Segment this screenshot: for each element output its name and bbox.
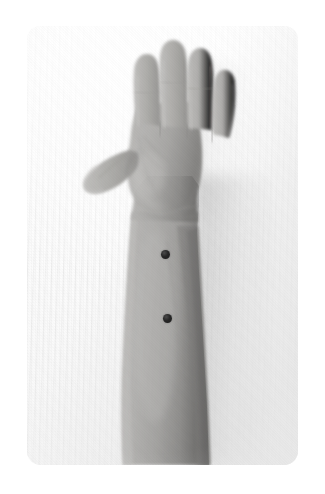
index-finger-shape [134, 54, 161, 126]
page-canvas: Grayscale photograph of a left forearm a… [0, 0, 325, 494]
left-forearm-and-hand [27, 26, 298, 465]
marker-proximal [161, 250, 170, 259]
middle-finger-shape [160, 40, 188, 128]
little-finger-shape [212, 70, 235, 138]
forearm-photograph: Grayscale photograph of a left forearm a… [27, 26, 298, 465]
marker-distal [163, 314, 172, 323]
ring-finger-shape [187, 48, 213, 130]
